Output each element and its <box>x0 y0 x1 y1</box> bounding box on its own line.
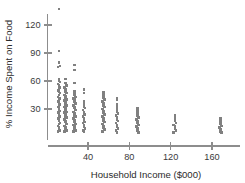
data-point <box>83 130 86 133</box>
x-tick-label-120: 120 <box>163 152 178 162</box>
chart-axes <box>48 14 241 146</box>
data-point <box>73 82 76 85</box>
data-point <box>57 130 60 133</box>
data-markers <box>57 8 223 134</box>
scatter-chart: 3060901204080120160 Household Income ($0… <box>0 0 245 183</box>
y-tick-label-90: 90 <box>30 48 40 58</box>
plot-area: 3060901204080120160 Household Income ($0… <box>0 0 245 183</box>
data-point <box>83 88 86 91</box>
x-tick-label-80: 80 <box>124 152 134 162</box>
data-point <box>172 131 175 134</box>
data-point <box>57 66 60 69</box>
data-point <box>116 98 119 101</box>
y-axis-title: % Income Spent on Food <box>3 20 14 128</box>
x-tick-label-160: 160 <box>204 152 219 162</box>
data-point <box>64 82 67 85</box>
x-tick-label-40: 40 <box>83 152 93 162</box>
y-tick-label-120: 120 <box>25 20 40 30</box>
data-point <box>83 92 86 95</box>
data-point <box>137 131 140 134</box>
y-tick-label-30: 30 <box>30 104 40 114</box>
data-point <box>73 64 76 67</box>
data-point <box>101 130 104 133</box>
axis-ticks: 3060901204080120160 <box>25 20 220 162</box>
data-point <box>63 130 66 133</box>
data-point <box>58 61 61 64</box>
data-point <box>116 131 119 134</box>
data-point <box>58 8 61 11</box>
data-point <box>73 69 76 72</box>
data-point <box>72 130 75 133</box>
data-point <box>220 131 223 134</box>
data-point <box>64 78 67 81</box>
data-point <box>58 50 61 53</box>
y-tick-label-60: 60 <box>30 76 40 86</box>
x-axis-title: Household Income ($000) <box>91 169 201 180</box>
